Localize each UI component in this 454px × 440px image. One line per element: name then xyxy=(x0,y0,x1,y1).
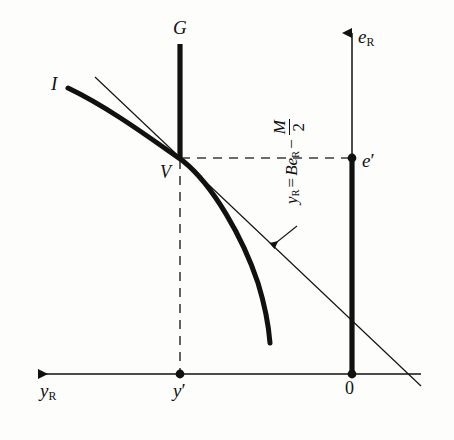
axis-label-e-r: eR xyxy=(358,27,374,48)
curve-I xyxy=(68,88,270,343)
figure-canvas: yR eR G I V e′ 0 y′ yR=BeR−M2 xyxy=(0,0,454,440)
curve-label-i: I xyxy=(51,74,57,93)
point-e-prime xyxy=(348,154,357,163)
equation-annotation: yR=BeR−M2 xyxy=(271,119,308,204)
tangent-line xyxy=(95,77,421,386)
point-label-y-prime: y′ xyxy=(173,381,186,400)
point-label-v: V xyxy=(160,163,171,181)
curve-label-g: G xyxy=(173,18,187,37)
point-label-origin: 0 xyxy=(345,379,354,397)
axis-label-y-r: yR xyxy=(40,381,56,402)
fraction-m-over-2: M2 xyxy=(271,119,308,135)
diagram-svg xyxy=(0,0,454,440)
equation-leader-line xyxy=(272,226,297,246)
point-y-prime xyxy=(176,370,185,379)
point-label-e-prime: e′ xyxy=(362,151,375,170)
